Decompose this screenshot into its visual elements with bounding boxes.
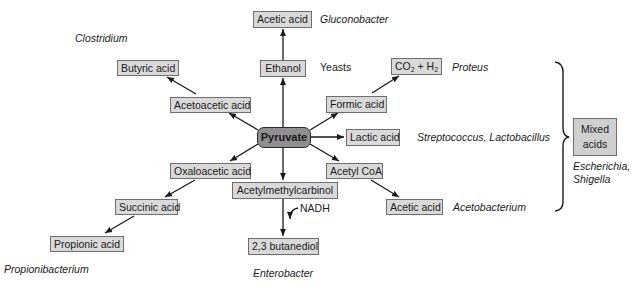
organism-enterobacter: Enterobacter xyxy=(253,267,313,280)
organism-gluconobacter: Gluconobacter xyxy=(320,13,388,26)
node-butyric-acid: Butyric acid xyxy=(117,60,179,76)
node-oxaloacetic-acid: Oxaloacetic acid xyxy=(170,163,251,179)
organism-propionibacterium: Propionibacterium xyxy=(4,263,89,276)
organism-escherichia: Escherichia, xyxy=(573,160,630,173)
cofactor-nadh: NADH xyxy=(300,202,330,215)
co2-label: CO xyxy=(395,60,411,72)
node-pyruvate: Pyruvate xyxy=(257,127,311,148)
node-acetoacetic-acid: Acetoacetic acid xyxy=(170,97,251,113)
organism-yeasts: Yeasts xyxy=(320,61,351,74)
plus-h-label: + H xyxy=(415,60,435,72)
node-ethanol: Ethanol xyxy=(260,60,306,77)
node-succinic-acid: Succinic acid xyxy=(115,199,178,215)
node-butanediol: 2,3 butanediol xyxy=(248,238,319,255)
node-lactic-acid: Lactic acid xyxy=(346,129,400,146)
organism-proteus: Proteus xyxy=(452,61,488,74)
node-acetylmethylcarbinol: Acetylmethylcarbinol xyxy=(232,182,338,199)
node-acetic-acid-top: Acetic acid xyxy=(253,11,312,28)
node-acetic-acid-bottom: Acetic acid xyxy=(386,199,443,215)
node-formic-acid: Formic acid xyxy=(326,96,387,113)
node-co2-h2: CO2 + H2 xyxy=(391,58,442,75)
organism-shigella: Shigella xyxy=(573,173,610,186)
node-propionic-acid: Propionic acid xyxy=(50,236,124,252)
organism-clostridium: Clostridium xyxy=(75,32,128,45)
organism-acetobacterium: Acetobacterium xyxy=(453,201,526,214)
mixed-acids-line2: acids xyxy=(574,137,616,152)
node-acetyl-coa: Acetyl CoA xyxy=(326,163,383,179)
h2-subscript: 2 xyxy=(434,66,438,73)
organism-streptococcus-lactobacillus: Streptococcus, Lactobacillus xyxy=(417,131,550,144)
node-mixed-acids: Mixed acids xyxy=(573,118,617,156)
mixed-acids-line1: Mixed xyxy=(574,122,616,137)
